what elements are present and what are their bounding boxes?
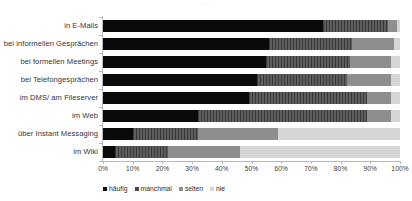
x-tick-mark [133, 161, 134, 164]
chart-legend: häufigmanchmalseltennie [103, 185, 400, 192]
bar-row [103, 128, 400, 140]
bar-row [103, 74, 400, 86]
category-label: im DMS/ am Fileserver [0, 89, 98, 107]
legend-swatch-icon [135, 187, 139, 191]
x-tick-label: 20% [147, 165, 177, 172]
bar-segment-nie [391, 110, 400, 122]
bar-segment-häufig [103, 56, 266, 68]
bar-segment-häufig [103, 38, 269, 50]
bar-segment-manchmal [249, 92, 368, 104]
bar-segment-selten [347, 74, 392, 86]
bar-row [103, 110, 400, 122]
bar-segment-selten [168, 146, 239, 158]
bar-segment-nie [391, 56, 400, 68]
category-label: in E-Mails [0, 17, 98, 35]
category-label: bei Telefongesprächen [0, 71, 98, 89]
legend-swatch-icon [210, 187, 214, 191]
bar-row [103, 92, 400, 104]
legend-swatch-icon [103, 187, 107, 191]
x-tick-mark [222, 161, 223, 164]
legend-item[interactable]: selten [179, 185, 203, 192]
legend-label: häufig [109, 185, 128, 192]
bar-segment-manchmal [269, 38, 352, 50]
bar-segment-selten [350, 56, 392, 68]
x-tick-mark [341, 161, 342, 164]
bar-segment-selten [367, 92, 391, 104]
x-tick-label: 50% [237, 165, 267, 172]
bar-segment-häufig [103, 74, 257, 86]
legend-label: manchmal [141, 185, 172, 192]
y-tick-mark [99, 17, 102, 18]
x-tick-mark [162, 161, 163, 164]
category-label-column: in E-Mailsbei informellen Gesprächenbei … [0, 17, 98, 161]
x-tick-mark [311, 161, 312, 164]
bar-segment-nie [240, 146, 400, 158]
legend-label: selten [185, 185, 203, 192]
bar-segment-manchmal [266, 56, 349, 68]
x-tick-label: 80% [326, 165, 356, 172]
x-tick-label: 60% [266, 165, 296, 172]
legend-label: nie [216, 185, 225, 192]
category-label: bei formellen Meetings [0, 53, 98, 71]
bar-row [103, 146, 400, 158]
y-tick-mark [99, 35, 102, 36]
x-tick-label: 90% [355, 165, 385, 172]
bar-segment-manchmal [323, 20, 388, 32]
legend-item[interactable]: häufig [103, 185, 128, 192]
bar-segment-häufig [103, 128, 133, 140]
legend-swatch-icon [179, 187, 183, 191]
bar-segment-nie [391, 92, 400, 104]
x-tick-label: 0% [88, 165, 118, 172]
plot-area [103, 17, 400, 161]
y-tick-mark [99, 53, 102, 54]
bar-segment-häufig [103, 20, 323, 32]
category-label: im Web [0, 107, 98, 125]
bar-segment-manchmal [133, 128, 198, 140]
bar-segment-häufig [103, 146, 115, 158]
bar-row [103, 56, 400, 68]
cropped-header-strip: · · · [0, 0, 412, 8]
bar-segment-selten [352, 38, 394, 50]
bar-row [103, 20, 400, 32]
y-tick-mark [99, 89, 102, 90]
y-tick-mark [99, 71, 102, 72]
bar-segment-nie [397, 20, 400, 32]
y-tick-mark [99, 161, 102, 162]
x-tick-label: 40% [207, 165, 237, 172]
stacked-bar-chart: · · · in E-Mailsbei informellen Gespräch… [0, 0, 412, 201]
bar-row [103, 38, 400, 50]
bar-segment-nie [394, 38, 400, 50]
bar-segment-nie [278, 128, 400, 140]
bar-segment-selten [367, 110, 391, 122]
bar-segment-häufig [103, 92, 249, 104]
category-label: bei informellen Gesprächen [0, 35, 98, 53]
x-tick-mark [400, 161, 401, 164]
x-tick-mark [281, 161, 282, 164]
x-tick-mark [103, 161, 104, 164]
bar-segment-manchmal [198, 110, 367, 122]
legend-item[interactable]: manchmal [135, 185, 172, 192]
x-tick-label: 100% [385, 165, 412, 172]
y-tick-mark [99, 143, 102, 144]
x-tick-mark [370, 161, 371, 164]
bar-segment-manchmal [115, 146, 168, 158]
x-tick-label: 30% [177, 165, 207, 172]
category-label: im Wiki [0, 143, 98, 161]
legend-item[interactable]: nie [210, 185, 225, 192]
x-tick-mark [192, 161, 193, 164]
x-tick-label: 70% [296, 165, 326, 172]
y-tick-mark [99, 107, 102, 108]
x-tick-label: 10% [118, 165, 148, 172]
category-label: über Instant Messaging [0, 125, 98, 143]
bar-segment-häufig [103, 110, 198, 122]
bar-segment-manchmal [257, 74, 346, 86]
bar-segment-nie [391, 74, 400, 86]
bar-segment-selten [198, 128, 278, 140]
x-tick-mark [252, 161, 253, 164]
y-tick-mark [99, 125, 102, 126]
bar-segment-selten [388, 20, 397, 32]
